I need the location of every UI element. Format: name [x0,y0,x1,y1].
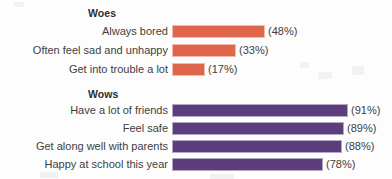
scan-artifact [14,2,24,7]
table-row: Often feel sad and unhappy (33%) [0,43,392,59]
chart-title-cropped [150,0,392,9]
table-row: Get along well with parents (88%) [0,139,392,155]
bar-track [172,63,205,76]
bar-track [172,44,236,57]
bar-value-label: (78%) [326,157,355,171]
bar-label: Happy at school this year [0,157,168,171]
group-header-woes: Woes [88,7,116,19]
bar-fill-feel-safe[interactable] [172,122,344,135]
bar-chart: Woes Always bored (48%) Often feel sad a… [0,0,392,179]
bar-fill-always-bored[interactable] [172,25,265,38]
bar-value-label: (17%) [208,62,237,76]
bar-label: Get along well with parents [0,139,168,153]
bar-track [172,140,342,153]
bar-fill-get-into-trouble-a-lot[interactable] [172,63,205,76]
table-row: Get into trouble a lot (17%) [0,62,392,78]
bar-track [172,122,344,135]
bar-fill-have-a-lot-of-friends[interactable] [172,104,348,117]
table-row: Happy at school this year (78%) [0,157,392,173]
table-row: Have a lot of friends (91%) [0,103,392,119]
bar-label: Have a lot of friends [0,103,168,117]
bar-label: Feel safe [0,121,168,135]
bar-track [172,25,265,38]
bar-value-label: (33%) [239,43,268,57]
table-row: Feel safe (89%) [0,121,392,137]
bar-track [172,158,323,171]
bar-label: Often feel sad and unhappy [0,43,168,57]
scan-artifact [210,174,234,179]
bar-track [172,104,348,117]
table-row: Always bored (48%) [0,24,392,40]
bar-value-label: (89%) [347,121,376,135]
bar-fill-get-along-well-with-parents[interactable] [172,140,342,153]
group-header-wows: Wows [88,88,119,100]
bar-label: Always bored [0,24,168,38]
bar-fill-happy-at-school-this-year[interactable] [172,158,323,171]
bar-fill-often-feel-sad-and-unhappy[interactable] [172,44,236,57]
bar-label: Get into trouble a lot [0,62,168,76]
bar-value-label: (91%) [351,103,380,117]
bar-value-label: (88%) [345,139,374,153]
bar-value-label: (48%) [268,24,297,38]
